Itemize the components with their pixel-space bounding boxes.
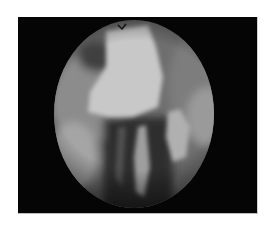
endoscopic-image-frame: [18, 17, 258, 214]
endoscopic-view: [18, 17, 257, 213]
